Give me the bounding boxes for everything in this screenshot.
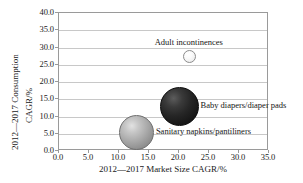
x-tick-label: 35.0 (248, 153, 288, 162)
x-tick-mark (148, 150, 149, 153)
point-label: Sanitary napkins/pantiliners (156, 127, 251, 136)
y-axis-title-line2: CAGR/% (25, 88, 34, 123)
y-tick-label: 35.0 (10, 25, 54, 34)
y-tick-mark (55, 29, 58, 30)
gridline (59, 82, 267, 83)
point-label: Adult incontinences (155, 38, 223, 47)
x-tick-mark (178, 150, 179, 153)
x-tick-mark (238, 150, 239, 153)
x-tick-mark (118, 150, 119, 153)
y-tick-mark (55, 133, 58, 134)
y-tick-mark (55, 12, 58, 13)
y-tick-label: 40.0 (10, 8, 54, 17)
x-tick-mark (88, 150, 89, 153)
bubble-chart: 0.05.010.015.020.025.030.035.040.0 0.05.… (0, 0, 303, 183)
bubble-point[interactable] (119, 115, 154, 150)
y-tick-mark (55, 98, 58, 99)
gridline (59, 30, 267, 31)
x-axis-title: 2012—2017 Market Size CAGR/% (58, 164, 268, 174)
x-tick-mark (58, 150, 59, 153)
y-tick-label: 30.0 (10, 43, 54, 52)
y-tick-mark (55, 64, 58, 65)
gridline (59, 48, 267, 49)
y-tick-mark (55, 47, 58, 48)
bubble-point[interactable] (183, 50, 196, 63)
gridline (59, 65, 267, 66)
point-label: Baby diapers/diaper pads (201, 101, 287, 110)
x-tick-mark (208, 150, 209, 153)
y-tick-mark (55, 116, 58, 117)
bubble-point[interactable] (160, 87, 199, 126)
y-axis-title-line1: 2012—2017 Consumption (11, 54, 20, 150)
x-tick-mark (268, 150, 269, 153)
y-tick-mark (55, 81, 58, 82)
